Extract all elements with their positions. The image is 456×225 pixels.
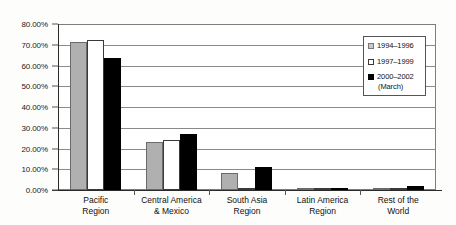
y-axis-tick-mark bbox=[52, 190, 58, 191]
y-axis: 80.00%70.00%60.00%50.00%40.00%30.00%20.0… bbox=[0, 24, 54, 190]
x-axis-category-label-line: World bbox=[378, 206, 419, 217]
y-axis-tick-mark bbox=[52, 169, 58, 170]
y-axis-tick-mark bbox=[52, 127, 58, 128]
legend-label-line: 1994–1996 bbox=[377, 41, 414, 50]
legend-label: 1997–1999 bbox=[377, 57, 414, 67]
bar bbox=[87, 40, 104, 190]
x-axis-category-label-line: Pacific bbox=[82, 195, 109, 206]
legend-swatch-icon bbox=[368, 59, 374, 65]
y-axis-tick-label: 50.00% bbox=[21, 82, 48, 91]
y-axis-tick-label: 10.00% bbox=[21, 165, 48, 174]
y-axis-tick-mark bbox=[52, 107, 58, 108]
y-axis-tick-label: 70.00% bbox=[21, 40, 48, 49]
y-axis-tick-label: 60.00% bbox=[21, 61, 48, 70]
x-axis-category-label-line: Latin America bbox=[297, 195, 349, 206]
legend-label-line: (March) bbox=[377, 82, 414, 92]
bar bbox=[221, 173, 238, 190]
x-axis-category-label-line: Region bbox=[227, 206, 268, 217]
legend-label: 1994–1996 bbox=[377, 41, 414, 51]
bar bbox=[255, 167, 272, 190]
y-axis-tick-mark bbox=[52, 24, 58, 25]
x-axis-category-label-line: Central America bbox=[141, 195, 201, 206]
x-axis-category-label: Central America& Mexico bbox=[141, 195, 201, 217]
y-axis-tick-mark bbox=[52, 44, 58, 45]
legend-swatch-icon bbox=[368, 74, 374, 80]
x-axis-category-label-line: Region bbox=[297, 206, 349, 217]
legend-swatch-icon bbox=[368, 43, 374, 49]
bar-group bbox=[285, 24, 361, 190]
y-axis-tick-label: 30.00% bbox=[21, 123, 48, 132]
bar bbox=[70, 42, 87, 190]
x-axis-category-label: South AsiaRegion bbox=[227, 195, 268, 217]
y-axis-tick-mark bbox=[52, 148, 58, 149]
bar bbox=[180, 134, 197, 190]
bar bbox=[104, 58, 121, 190]
legend-label-line: 1997–1999 bbox=[377, 57, 414, 66]
legend-label-line: 2000–2002 bbox=[377, 72, 414, 81]
bar-group bbox=[209, 24, 285, 190]
legend-item: 2000–2002(March) bbox=[368, 72, 421, 91]
legend-item: 1997–1999 bbox=[368, 57, 421, 67]
x-axis-category-label-line: Rest of the bbox=[378, 195, 419, 206]
x-axis-category-label: Latin AmericaRegion bbox=[297, 195, 349, 217]
bar-chart: 80.00%70.00%60.00%50.00%40.00%30.00%20.0… bbox=[0, 0, 456, 225]
x-axis-category-label: PacificRegion bbox=[82, 195, 109, 217]
bar bbox=[146, 142, 163, 190]
y-axis-tick-mark bbox=[52, 65, 58, 66]
x-axis-category-label-line: Region bbox=[82, 206, 109, 217]
x-axis-labels: PacificRegionCentral America& MexicoSout… bbox=[58, 195, 436, 225]
y-axis-tick-label: 40.00% bbox=[21, 103, 48, 112]
legend-item: 1994–1996 bbox=[368, 41, 421, 51]
bar-group bbox=[58, 24, 134, 190]
chart-legend: 1994–19961997–19992000–2002(March) bbox=[363, 36, 426, 96]
x-axis-category-label: Rest of theWorld bbox=[378, 195, 419, 217]
bar-group bbox=[134, 24, 210, 190]
x-axis-category-label-line: & Mexico bbox=[141, 206, 201, 217]
y-axis-tick-label: 80.00% bbox=[21, 20, 48, 29]
y-axis-tick-mark bbox=[52, 86, 58, 87]
bar bbox=[163, 140, 180, 190]
legend-label: 2000–2002(March) bbox=[377, 72, 414, 91]
y-axis-tick-label: 0.00% bbox=[26, 186, 48, 195]
y-axis-tick-label: 20.00% bbox=[21, 144, 48, 153]
x-axis-category-label-line: South Asia bbox=[227, 195, 268, 206]
